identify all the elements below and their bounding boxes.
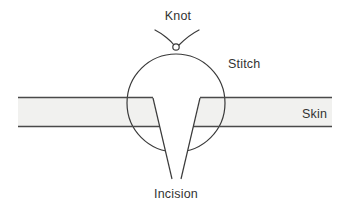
knot-tail-right (179, 30, 199, 45)
diagram-canvas: Knot Stitch Skin Incision (0, 0, 349, 211)
label-knot: Knot (165, 9, 192, 23)
label-incision: Incision (154, 187, 198, 201)
incision-gap-fill (153, 98, 200, 179)
suture-diagram: Knot Stitch Skin Incision (0, 0, 349, 211)
knot-icon (173, 44, 179, 50)
skin-band-fill-left (18, 98, 160, 126)
label-skin: Skin (302, 107, 327, 121)
knot-tail-left (155, 30, 174, 45)
label-stitch: Stitch (228, 57, 260, 71)
knot-group (155, 30, 199, 50)
